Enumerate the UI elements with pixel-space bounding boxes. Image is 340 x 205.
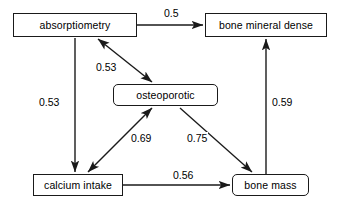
edge-label-absorptiometry-calcium-intake: 0.53 bbox=[38, 96, 60, 108]
node-bone-mineral-dense[interactable]: bone mineral dense bbox=[205, 13, 327, 37]
node-osteoporotic-label: osteoporotic bbox=[136, 89, 194, 101]
edge-label-calcium-intake-bone-mass: 0.56 bbox=[172, 169, 194, 181]
edge-label-bone-mass-bone-mineral-dense: 0.59 bbox=[271, 96, 293, 108]
node-calcium-intake-label: calcium intake bbox=[44, 179, 112, 191]
node-absorptiometry-label: absorptiometry bbox=[40, 19, 111, 31]
node-absorptiometry[interactable]: absorptiometry bbox=[13, 13, 137, 37]
node-bone-mass-label: bone mass bbox=[244, 179, 296, 191]
node-calcium-intake[interactable]: calcium intake bbox=[33, 174, 123, 196]
path-diagram: absorptiometry bone mineral dense osteop… bbox=[0, 0, 340, 205]
edge-label-calcium-intake-osteoporotic: 0.69 bbox=[130, 132, 152, 144]
node-bone-mineral-dense-label: bone mineral dense bbox=[219, 19, 313, 31]
edge-label-osteoporotic-bone-mass: 0.75 bbox=[186, 132, 208, 144]
node-osteoporotic[interactable]: osteoporotic bbox=[113, 84, 218, 106]
node-bone-mass[interactable]: bone mass bbox=[232, 174, 309, 196]
edge-label-absorptiometry-bone-mineral-dense: 0.5 bbox=[163, 7, 180, 19]
edge-label-absorptiometry-osteoporotic: 0.53 bbox=[95, 61, 117, 73]
